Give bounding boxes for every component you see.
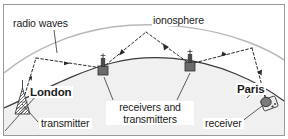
radio-propagation-figure: radio waves ionosphere London transmitte…	[0, 0, 288, 139]
label-london: London	[29, 86, 73, 98]
label-ionosphere: ionosphere	[152, 15, 205, 26]
label-paris: Paris	[236, 83, 266, 95]
label-transmitter: transmitter	[39, 118, 92, 129]
label-radio-waves: radio waves	[12, 18, 69, 29]
label-receiver: receiver	[203, 118, 244, 129]
label-receivers-and-transmitters: receivers and transmitters	[106, 101, 194, 125]
